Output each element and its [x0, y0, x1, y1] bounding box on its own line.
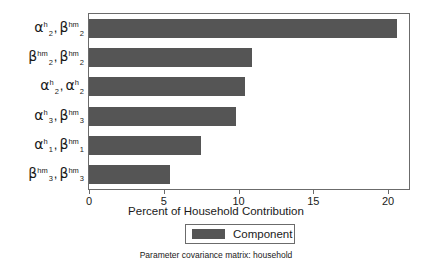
bar-row — [89, 72, 409, 102]
bar — [89, 136, 201, 155]
chart-legend: Component — [185, 224, 295, 244]
x-axis: 05101520 — [88, 190, 410, 191]
y-axis-labels: αh2,βhm2βhm2,βhm2αh2,αh2αh3,βhm3αh1,βhm1… — [0, 13, 86, 190]
bar-row — [89, 14, 409, 44]
bar — [89, 165, 170, 184]
bar — [89, 107, 236, 126]
y-axis-label: βhm2,βhm2 — [28, 42, 84, 72]
bar-series-component — [89, 14, 409, 189]
legend-label-component: Component — [233, 228, 292, 240]
bar-row — [89, 43, 409, 73]
y-axis-label: αh1,βhm1 — [34, 130, 84, 160]
y-axis-label: αh3,βhm3 — [34, 101, 84, 131]
x-axis-tick — [388, 190, 389, 194]
x-axis-tick — [89, 190, 90, 194]
y-axis-label: αh2,βhm2 — [34, 13, 84, 43]
x-axis-tick — [313, 190, 314, 194]
bar-row — [89, 131, 409, 161]
bar — [89, 48, 252, 67]
y-axis-label: αh2,αh2 — [40, 71, 84, 101]
chart-caption: Parameter covariance matrix: household — [0, 250, 432, 260]
bar-chart: αh2,βhm2βhm2,βhm2αh2,αh2αh3,βhm3αh1,βhm1… — [0, 0, 432, 266]
bar — [89, 19, 397, 38]
y-axis-label: βhm3,βhm3 — [28, 159, 84, 189]
x-axis-tick — [164, 190, 165, 194]
bar-row — [89, 102, 409, 132]
x-axis-title: Percent of Household Contribution — [0, 205, 432, 217]
x-axis-tick — [239, 190, 240, 194]
legend-swatch-component — [192, 229, 225, 239]
bar — [89, 77, 245, 96]
bar-row — [89, 160, 409, 190]
